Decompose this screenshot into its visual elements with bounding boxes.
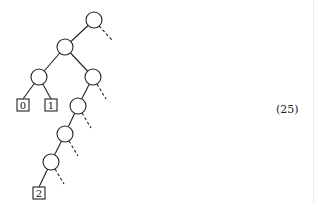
leaf-label: 1: [48, 100, 54, 111]
equation-number: (25): [276, 103, 299, 116]
leaf-label: 0: [20, 100, 26, 111]
tree-node: [86, 12, 102, 28]
tree-node: [43, 154, 59, 170]
tree-node: [57, 126, 73, 142]
leaf-2: 2: [33, 187, 45, 199]
diagram-canvas: 0 1 2 (25): [0, 0, 316, 205]
tree-node: [85, 69, 101, 85]
tree-node: [70, 98, 86, 114]
tree-node: [57, 39, 73, 55]
tree-node: [31, 69, 47, 85]
internal-nodes: [31, 12, 102, 170]
tree-diagram: 0 1 2: [0, 0, 316, 205]
leaf-label: 2: [36, 188, 42, 199]
page-edge: [313, 0, 314, 205]
leaf-1: 1: [45, 99, 57, 111]
leaf-0: 0: [17, 99, 29, 111]
